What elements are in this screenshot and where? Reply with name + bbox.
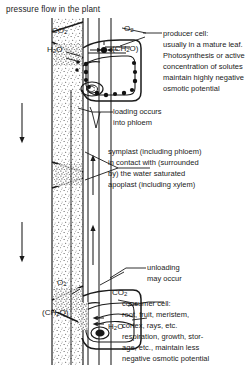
- callout-symplast: symplast (including phloem) in contact w…: [108, 146, 202, 190]
- label-unloading: unloading may occur: [147, 262, 182, 284]
- figure-pressure-flow: pressure flow in the plant CO2 O2 H2O (C…: [0, 0, 245, 365]
- figure-title: pressure flow in the plant: [6, 5, 100, 16]
- label-loading: loading occurs into phloem: [113, 106, 162, 128]
- chem-label-producer-h2o: H2O: [47, 45, 62, 56]
- chem-label-producer-o2: O2: [124, 24, 134, 35]
- chem-label-consumer-ch2o: (CH2O): [42, 308, 68, 319]
- callout-consumer-title: consumer cell:: [122, 298, 209, 309]
- callout-producer-title: producer cell:: [163, 28, 245, 39]
- callout-producer-cell: producer cell: usually in a mature leaf.…: [163, 28, 245, 95]
- chem-label-producer-co2: CO2: [52, 26, 67, 37]
- chem-label-producer-ch2o: (CH2O): [112, 44, 138, 55]
- callout-consumer-cell: consumer cell: root, fruit, meristem, co…: [122, 298, 209, 365]
- chem-label-consumer-o2: O2: [57, 278, 67, 289]
